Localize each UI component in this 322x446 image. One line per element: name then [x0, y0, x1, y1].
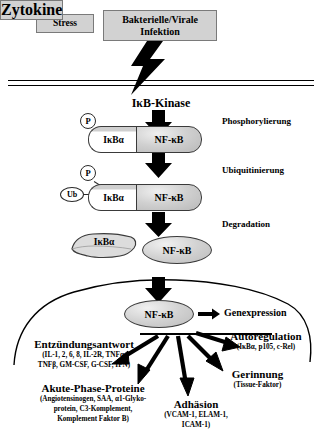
effect-entzuendungsantwort: Entzündungsantwort (IL-1, 2, 6, 8, IL-2R… — [4, 338, 164, 370]
effect-detail-line: (IL-1, 2, 6, 8, IL-2R, TNFα, — [4, 350, 164, 360]
effect-detail-line: (Tissue-Faktor) — [205, 380, 310, 390]
effect-detail-line: ICAM-1) — [140, 420, 252, 430]
arrow-to-adhaesion — [178, 336, 194, 396]
effect-title-gerinnung: Gerinnung — [205, 368, 310, 380]
effect-detail-line: (IκBα, p105, c-Rel) — [212, 342, 320, 352]
effect-autoregulation: Autoregulation (IκBα, p105, c-Rel) — [212, 330, 320, 352]
pathway-diagram: Stress Bakterielle/Virale Infektion Zyto… — [0, 0, 322, 446]
effect-gerinnung: Gerinnung (Tissue-Faktor) — [205, 368, 310, 390]
effect-title-autoregulation: Autoregulation — [212, 330, 320, 342]
effect-adhaesion: Adhäsion (VCAM-1, ELAM-1, ICAM-1) — [140, 398, 252, 430]
effect-detail-line: (VCAM-1, ELAM-1, — [140, 410, 252, 420]
effect-title-adhaesion: Adhäsion — [140, 398, 252, 410]
effect-title-entzuendungsantwort: Entzündungsantwort — [4, 338, 164, 350]
effect-detail-line: TNFβ, GM-CSF, G-CSF, IFN) — [4, 360, 164, 370]
effect-title-akute-phase-proteine: Akute-Phase-Proteine — [14, 382, 172, 394]
